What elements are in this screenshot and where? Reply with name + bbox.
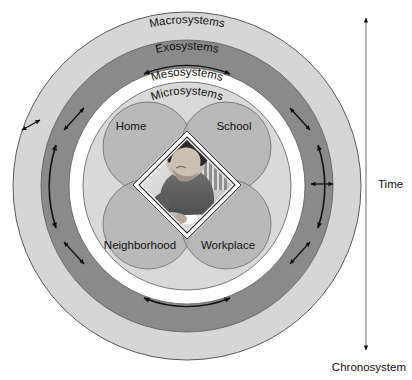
microsystem-label-home: Home	[116, 120, 147, 132]
microsystem-label-neighborhood: Neighborhood	[104, 239, 176, 251]
diagram-canvas: Macrosystems Exosystems Mesosystems Micr…	[0, 0, 412, 380]
microsystem-label-school: School	[216, 120, 251, 132]
ecological-systems-diagram: Macrosystems Exosystems Mesosystems Micr…	[0, 0, 412, 380]
time-label: Time	[378, 178, 403, 190]
microsystem-label-workplace: Workplace	[201, 239, 255, 251]
chronosystem-label: Chronosystem	[332, 361, 406, 373]
